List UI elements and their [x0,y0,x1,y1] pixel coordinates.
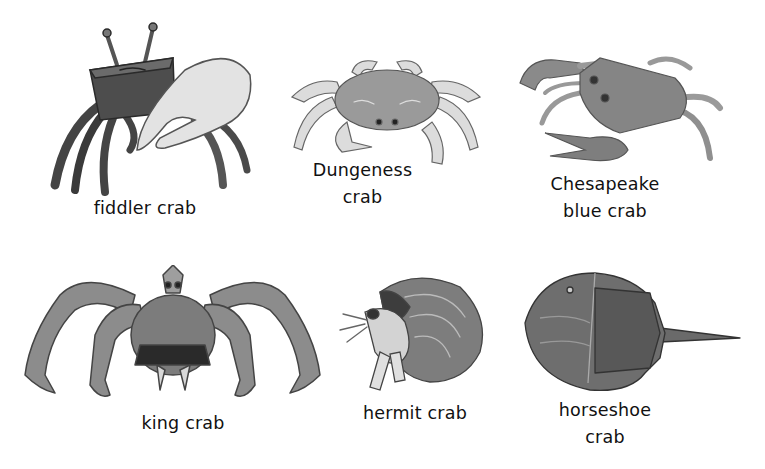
dungeness-crab-illustration [282,52,492,170]
horseshoe-crab-label: horseshoe crab [545,397,665,451]
label-line: Dungeness [300,157,425,184]
label-line: blue crab [540,198,670,225]
label-line: crab [545,424,665,451]
fiddler-crab-label: fiddler crab [80,195,210,222]
label-line: hermit crab [350,400,480,427]
blue-crab-illustration [510,38,735,173]
blue-crab-label: Chesapeake blue crab [540,171,670,225]
king-crab-label: king crab [128,410,238,437]
label-line: crab [300,184,425,211]
hermit-crab-illustration [335,272,490,397]
horseshoe-crab-illustration [520,268,745,398]
label-line: horseshoe [545,397,665,424]
king-crab-illustration [15,265,330,410]
hermit-crab-label: hermit crab [350,400,480,427]
label-line: Chesapeake [540,171,670,198]
dungeness-crab-label: Dungeness crab [300,157,425,211]
fiddler-crab-illustration [45,20,265,200]
label-line: fiddler crab [80,195,210,222]
label-line: king crab [128,410,238,437]
